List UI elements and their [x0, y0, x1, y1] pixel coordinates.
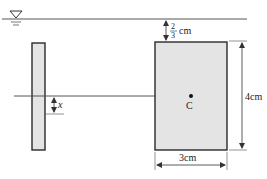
width-dimension: 3cm: [155, 152, 227, 170]
width-label: 3cm: [179, 152, 196, 163]
centroid-label: C: [186, 100, 193, 111]
depth-unit: cm: [179, 25, 191, 36]
centroid-point: [189, 94, 193, 98]
free-surface: [2, 11, 247, 25]
free-surface-triangle-icon: [10, 11, 22, 18]
diagram-canvas: x C 2 3 cm 4cm 3cm: [0, 0, 267, 179]
height-dimension: 4cm: [229, 41, 262, 150]
depth-dimension: 2 3 cm: [166, 21, 191, 40]
height-label: 4cm: [245, 91, 262, 102]
depth-numerator: 2: [171, 22, 175, 31]
depth-denominator: 3: [171, 31, 175, 40]
plate-side-view: [32, 43, 45, 150]
offset-label: x: [57, 99, 63, 110]
offset-dimension: x: [45, 98, 64, 114]
